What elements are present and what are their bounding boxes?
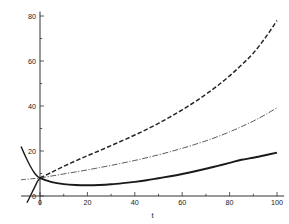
series-upper-dashed-curve bbox=[40, 21, 277, 179]
series-middle-dashdot-curve bbox=[40, 108, 277, 178]
x-tick-label: 80 bbox=[226, 198, 234, 207]
axes-group bbox=[21, 12, 284, 206]
y-tick-label: 40 bbox=[28, 102, 36, 111]
y-axis-ticks bbox=[40, 16, 44, 196]
y-tick-label: 0 bbox=[32, 192, 36, 201]
x-axis-tick-labels: 020406080100 bbox=[38, 198, 283, 207]
x-tick-label: 40 bbox=[131, 198, 139, 207]
series-left-flat-dashdot bbox=[21, 178, 40, 180]
x-axis-ticks bbox=[40, 192, 277, 196]
x-tick-label: 60 bbox=[178, 198, 186, 207]
data-series-group bbox=[21, 21, 277, 203]
x-tick-label: 100 bbox=[271, 198, 283, 207]
y-tick-label: 80 bbox=[28, 12, 36, 21]
series-lower-solid-curve bbox=[40, 153, 277, 186]
y-tick-label: 20 bbox=[28, 147, 36, 156]
line-chart: 020406080100 020406080 t bbox=[0, 0, 289, 224]
x-tick-label: 0 bbox=[38, 198, 42, 207]
chart-container: 020406080100 020406080 t bbox=[0, 0, 289, 224]
x-axis-title: t bbox=[152, 211, 155, 220]
y-tick-label: 60 bbox=[28, 57, 36, 66]
x-tick-label: 20 bbox=[83, 198, 91, 207]
